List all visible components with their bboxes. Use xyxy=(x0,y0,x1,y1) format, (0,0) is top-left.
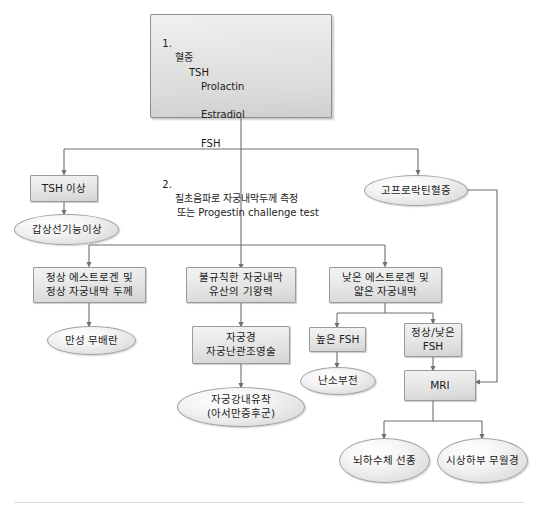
node-ovarian-failure: 난소부전 xyxy=(300,367,376,395)
node-high-fsh: 높은 FSH xyxy=(309,327,366,352)
node-tsh-abnormal: TSH 이상 xyxy=(30,175,98,202)
node-low-estrogen: 낮은 에스트로겐 및 얇은 자궁내막 xyxy=(329,267,442,303)
node-normal-low-fsh: 정상/낮은 FSH xyxy=(404,323,462,357)
test-estradiol: Estradiol xyxy=(175,108,319,122)
node-initial-workup: 혈중 TSH Prolactin Estradiol FSH 질초음파로 자궁내… xyxy=(150,14,332,118)
initial-workup-item-2: 질초음파로 자궁내막두께 측정 또는 Progestin challenge t… xyxy=(175,178,319,235)
blood-tests-label: 혈중 xyxy=(175,52,193,63)
progestin-challenge-label: 또는 Progestin challenge test xyxy=(175,206,319,220)
node-hypothalamic-amenorrhea: 시상하부 무월경 xyxy=(437,438,528,483)
node-thyroid-dysfunction: 갑상선기능이상 xyxy=(14,214,119,245)
initial-workup-item-1: 혈중 TSH Prolactin Estradiol FSH xyxy=(175,37,319,165)
test-fsh: FSH xyxy=(175,137,319,151)
node-hysteroscopy-hsg: 자궁경 자궁난관조영술 xyxy=(192,326,290,364)
test-tsh: TSH xyxy=(175,66,209,80)
node-normal-estrogen: 정상 에스트로겐 및 정상 자궁내막 두께 xyxy=(33,267,146,303)
node-asherman: 자궁강내유착 (아서만증후군) xyxy=(177,387,305,427)
node-pituitary-adenoma: 뇌하수체 선종 xyxy=(339,438,430,483)
node-mri: MRI xyxy=(404,370,476,401)
node-chronic-anovulation: 만성 무배란 xyxy=(47,326,136,355)
initial-workup-list: 혈중 TSH Prolactin Estradiol FSH 질초음파로 자궁내… xyxy=(161,24,319,248)
test-prolactin: Prolactin xyxy=(175,80,319,94)
flowchart-canvas: 혈중 TSH Prolactin Estradiol FSH 질초음파로 자궁내… xyxy=(0,0,535,516)
node-hyperprolactinemia: 고프로락틴혈증 xyxy=(364,175,468,206)
node-irregular-endometrium: 불규칙한 자궁내막 유산의 기왕력 xyxy=(186,267,296,303)
bottom-divider xyxy=(14,502,524,503)
ultrasound-label: 질초음파로 자궁내막두께 측정 xyxy=(175,193,298,204)
